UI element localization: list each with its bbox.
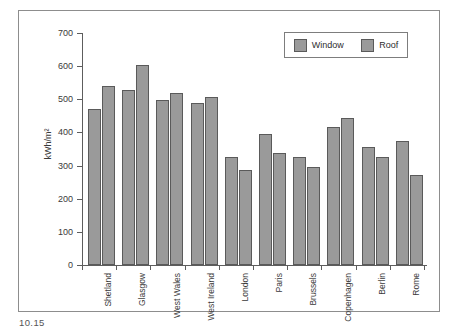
x-axis-tick: [116, 266, 117, 270]
bar-window: [293, 157, 306, 265]
x-axis-category-label: Copenhagen: [343, 273, 353, 322]
plot-area: [82, 33, 424, 265]
x-axis-tick: [82, 266, 83, 270]
bar-window: [259, 134, 272, 265]
bar-roof: [136, 65, 149, 266]
bar-window: [362, 147, 375, 265]
x-axis-category-label: Brussels: [308, 273, 318, 306]
figure-frame: 0100200300400500600700 kWh/m² ShetlandGl…: [18, 10, 440, 312]
bar-group: [88, 33, 116, 265]
y-axis-tick-label: 0: [29, 260, 73, 270]
y-axis-tick-label: 700: [29, 28, 73, 38]
legend-entry: Roof: [361, 39, 398, 52]
bar-window: [156, 100, 169, 265]
bar-window: [225, 157, 238, 265]
x-axis-tick: [185, 266, 186, 270]
bar-window: [396, 141, 409, 265]
x-axis-tick: [253, 266, 254, 270]
legend-label-roof: Roof: [379, 40, 398, 50]
x-axis-category-label: Paris: [274, 273, 284, 292]
bar-window: [327, 127, 340, 265]
y-axis-title-text: kWh/m²: [43, 109, 53, 179]
bar-group: [293, 33, 321, 265]
y-axis-tick-label: 200: [29, 194, 73, 204]
bar-window: [191, 103, 204, 265]
bar-group: [122, 33, 150, 265]
x-axis-category-label: Berlin: [377, 273, 387, 295]
x-axis-category-label: London: [240, 273, 250, 301]
x-axis-tick: [424, 266, 425, 270]
chart-legend: WindowRoof: [284, 32, 408, 58]
bar-window: [88, 109, 101, 265]
legend-swatch-window: [294, 39, 307, 52]
bar-roof: [170, 93, 183, 265]
figure-caption: 10.15: [19, 317, 45, 328]
x-axis-category-label: West Ireland: [206, 273, 216, 321]
bar-group: [327, 33, 355, 265]
bar-group: [259, 33, 287, 265]
y-axis-tick-label: 100: [29, 227, 73, 237]
x-axis-line: [82, 265, 427, 266]
bar-group: [362, 33, 390, 265]
x-axis-category-label: Rome: [411, 273, 421, 296]
bar-roof: [205, 97, 218, 265]
bar-roof: [102, 86, 115, 265]
bar-roof: [376, 157, 389, 265]
x-axis-tick: [390, 266, 391, 270]
legend-label-window: Window: [312, 40, 344, 50]
bar-roof: [341, 118, 354, 265]
bar-window: [122, 90, 135, 265]
x-axis-tick: [321, 266, 322, 270]
legend-entry: Window: [294, 39, 344, 52]
legend-swatch-roof: [361, 39, 374, 52]
bar-roof: [307, 167, 320, 265]
y-axis-tick-label: 500: [29, 94, 73, 104]
bar-group: [191, 33, 219, 265]
x-axis-tick: [219, 266, 220, 270]
bar-group: [396, 33, 424, 265]
x-axis-tick: [150, 266, 151, 270]
y-axis-tick-label: 600: [29, 61, 73, 71]
bar-roof: [273, 153, 286, 265]
bar-roof: [410, 175, 423, 265]
bar-group: [225, 33, 253, 265]
x-axis-tick: [356, 266, 357, 270]
x-axis-category-label: Shetland: [103, 273, 113, 307]
x-axis-tick: [287, 266, 288, 270]
bar-roof: [239, 170, 252, 265]
x-axis-category-label: West Wales: [172, 273, 182, 318]
x-axis-category-label: Glasgow: [137, 273, 147, 306]
bar-group: [156, 33, 184, 265]
